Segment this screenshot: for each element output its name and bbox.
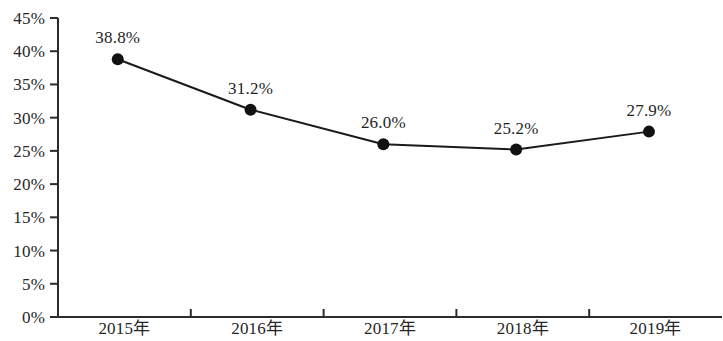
- data-point-label: 38.8%: [95, 29, 140, 46]
- x-axis-ticks: [191, 309, 589, 317]
- x-axis-tick-label: 2019年: [630, 320, 682, 337]
- series-line: [118, 59, 649, 149]
- data-point-marker: [510, 144, 522, 156]
- y-axis-tick-label: 15%: [0, 209, 45, 226]
- y-axis-tick-label: 10%: [0, 242, 45, 259]
- y-axis-tick-label: 40%: [0, 43, 45, 60]
- y-axis-tick-label: 20%: [0, 176, 45, 193]
- x-axis-tick-label: 2015年: [98, 320, 150, 337]
- y-axis-tick-label: 25%: [0, 142, 45, 159]
- x-axis-tick-label: 2016年: [231, 320, 283, 337]
- y-axis-tick-label: 30%: [0, 109, 45, 126]
- data-point-marker: [112, 53, 124, 65]
- y-axis-tick-label: 35%: [0, 76, 45, 93]
- data-point-marker: [245, 104, 257, 116]
- x-axis-tick-label: 2017年: [364, 320, 416, 337]
- x-axis-tick-label: 2018年: [497, 320, 549, 337]
- series-markers: [112, 53, 655, 155]
- axis-lines: [58, 18, 722, 317]
- data-point-label: 25.2%: [494, 120, 539, 137]
- line-chart: 0%5%10%15%20%25%30%35%40%45% 2015年2016年2…: [0, 0, 723, 341]
- chart-canvas: [0, 0, 723, 341]
- data-point-label: 31.2%: [228, 80, 273, 97]
- data-point-label: 26.0%: [361, 114, 406, 131]
- y-axis-tick-label: 5%: [0, 275, 45, 292]
- data-point-label: 27.9%: [626, 102, 671, 119]
- data-point-marker: [643, 126, 655, 138]
- data-point-marker: [377, 138, 389, 150]
- y-axis-tick-label: 0%: [0, 309, 45, 326]
- y-axis-tick-label: 45%: [0, 10, 45, 27]
- y-axis-ticks: [50, 18, 58, 317]
